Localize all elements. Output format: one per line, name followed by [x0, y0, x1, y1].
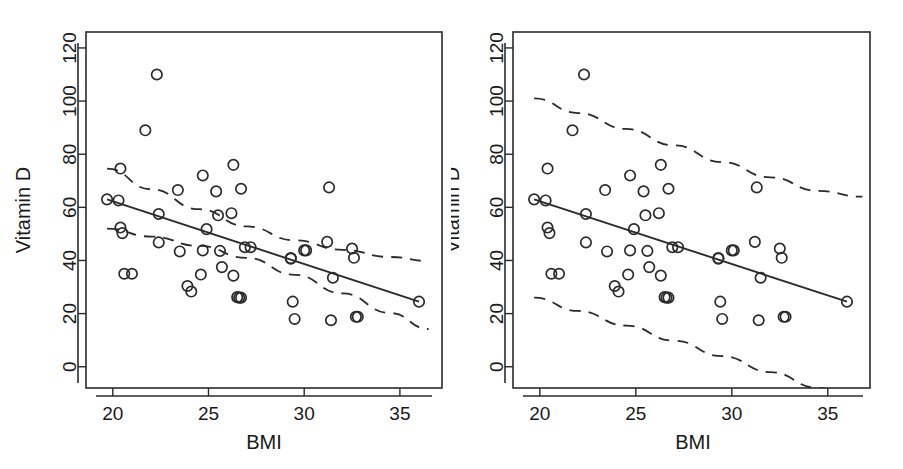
data-point: [152, 69, 162, 79]
data-point: [717, 314, 727, 324]
data-point: [196, 269, 206, 279]
data-point: [663, 184, 673, 194]
data-point: [211, 186, 221, 196]
data-point: [154, 237, 164, 247]
scatter-figure: 020406080100120 Vitamin D 20253035 BMI 0…: [0, 0, 903, 469]
data-point: [228, 160, 238, 170]
data-point: [127, 269, 137, 279]
prediction-band-upper: [534, 98, 862, 196]
confidence-band-lower: [107, 229, 429, 329]
x-tick-group: 20253035: [102, 388, 410, 424]
data-point: [554, 269, 564, 279]
y-tick-label: 100: [60, 85, 81, 117]
data-point: [236, 184, 246, 194]
y-tick-label: 20: [60, 303, 81, 324]
data-point: [175, 246, 185, 256]
data-point: [753, 315, 763, 325]
x-tick-label: 20: [102, 403, 123, 424]
data-point: [715, 296, 725, 306]
y-tick-label: 120: [487, 32, 508, 64]
data-point: [217, 262, 227, 272]
y-tick-label: 40: [60, 250, 81, 271]
data-point: [654, 208, 664, 218]
y-tick-label: 20: [487, 303, 508, 324]
data-point: [625, 170, 635, 180]
x-tick-label: 35: [817, 403, 838, 424]
data-point: [324, 182, 334, 192]
data-point: [198, 170, 208, 180]
data-point: [529, 194, 539, 204]
y-tick-group: 020406080100120: [60, 32, 87, 372]
y-tick-label: 60: [487, 197, 508, 218]
data-point: [115, 163, 125, 173]
x-tick-label: 30: [721, 403, 742, 424]
y-tick-group: 020406080100120: [487, 32, 514, 372]
data-point: [640, 210, 650, 220]
data-point: [228, 270, 238, 280]
data-point: [173, 185, 183, 195]
data-point: [140, 125, 150, 135]
x-axis-title: BMI: [675, 431, 711, 453]
data-point: [581, 237, 591, 247]
y-tick-label: 0: [60, 361, 81, 372]
x-tick-group: 20253035: [529, 388, 838, 424]
x-axis-left: 20253035 BMI: [96, 388, 432, 453]
panel-confidence-bands: 020406080100120 Vitamin D 20253035 BMI: [0, 0, 451, 469]
x-tick-label: 25: [625, 403, 646, 424]
data-point: [642, 246, 652, 256]
data-point: [656, 270, 666, 280]
y-tick-label: 40: [487, 250, 508, 271]
data-point: [542, 163, 552, 173]
x-tick-label: 25: [198, 403, 219, 424]
y-tick-label: 80: [60, 144, 81, 165]
data-point: [226, 208, 236, 218]
x-tick-label: 30: [294, 403, 315, 424]
regression-line: [534, 199, 847, 301]
y-tick-label: 100: [487, 85, 508, 117]
data-point: [322, 237, 332, 247]
data-point: [600, 185, 610, 195]
y-tick-label: 120: [60, 32, 81, 64]
data-point: [326, 315, 336, 325]
y-axis-title: Vitamin D: [12, 167, 34, 253]
data-point: [288, 296, 298, 306]
x-tick-label: 20: [529, 403, 550, 424]
prediction-band-lower: [534, 298, 862, 402]
x-axis-right: 20253035 BMI: [523, 388, 863, 453]
panel-prediction-bands: 020406080100120 Vitamin D 20253035 BMI: [451, 0, 902, 469]
data-point: [623, 269, 633, 279]
data-point: [602, 246, 612, 256]
x-axis-title: BMI: [246, 431, 282, 453]
data-point: [638, 186, 648, 196]
y-axis-right: 020406080100120 Vitamin D: [451, 32, 513, 383]
data-point: [750, 237, 760, 247]
y-tick-label: 60: [60, 197, 81, 218]
data-point: [644, 262, 654, 272]
y-tick-label: 80: [487, 144, 508, 165]
panel-right-canvas: 020406080100120 Vitamin D 20253035 BMI: [451, 0, 902, 469]
y-tick-label: 0: [487, 361, 508, 372]
data-point: [567, 125, 577, 135]
regression-line: [107, 199, 419, 301]
data-point: [625, 245, 635, 255]
data-point: [752, 182, 762, 192]
y-axis-left: 020406080100120 Vitamin D: [12, 32, 86, 383]
y-axis-title: Vitamin D: [451, 167, 463, 253]
data-point: [656, 160, 666, 170]
panel-left-canvas: 020406080100120 Vitamin D 20253035 BMI: [0, 0, 451, 469]
data-point: [579, 69, 589, 79]
x-tick-label: 35: [389, 403, 410, 424]
data-point: [289, 314, 299, 324]
